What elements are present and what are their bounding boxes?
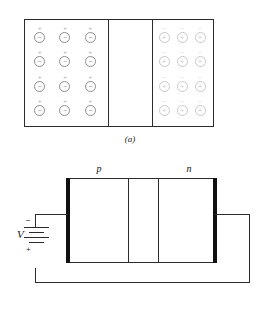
acceptor-ion-icon: − xyxy=(59,81,70,92)
electron-charge-symbol: − xyxy=(195,49,206,55)
donor-ion-cell: −+ xyxy=(177,30,190,43)
donor-ion-icon: + xyxy=(195,105,206,116)
acceptor-ion-cell: +− xyxy=(85,30,98,43)
hole-charge-symbol: + xyxy=(59,98,70,104)
acceptor-ion-icon: − xyxy=(34,32,45,43)
hole-charge-symbol: + xyxy=(59,49,70,55)
electron-charge-symbol: − xyxy=(177,25,188,31)
diode-body xyxy=(68,178,215,263)
wire-bottom xyxy=(35,282,250,283)
electrode-n-contact xyxy=(213,178,217,263)
diode-depletion-boundary-left xyxy=(128,178,129,263)
donor-ion-icon: + xyxy=(159,56,170,67)
donor-ion-cell: −+ xyxy=(195,54,208,67)
acceptor-ion-cell: +− xyxy=(59,54,72,67)
acceptor-ion-cell: +− xyxy=(34,79,47,92)
acceptor-ion-icon: − xyxy=(85,81,96,92)
hole-charge-symbol: + xyxy=(85,49,96,55)
electron-charge-symbol: − xyxy=(159,25,170,31)
panel-b: p n V − + (b) xyxy=(0,150,260,314)
label-p-region: p xyxy=(89,163,109,174)
electron-charge-symbol: − xyxy=(177,98,188,104)
hole-charge-symbol: + xyxy=(85,74,96,80)
donor-ion-icon: + xyxy=(159,105,170,116)
electron-charge-symbol: − xyxy=(177,49,188,55)
acceptor-ion-icon: − xyxy=(85,32,96,43)
battery-plate-short xyxy=(29,232,44,233)
electron-charge-symbol: − xyxy=(195,25,206,31)
hole-charge-symbol: + xyxy=(85,25,96,31)
electron-charge-symbol: − xyxy=(159,98,170,104)
donor-ion-icon: + xyxy=(177,81,188,92)
donor-ion-cell: −+ xyxy=(195,103,208,116)
pn-junction-figure: +−+−+−+−+−+−+−+−+−+−+−+− −+−+−+−+−+−+−+−… xyxy=(0,0,260,314)
donor-ion-icon: + xyxy=(195,32,206,43)
donor-ion-cell: −+ xyxy=(159,54,172,67)
acceptor-ion-icon: − xyxy=(85,56,96,67)
acceptor-ion-cell: +− xyxy=(59,103,72,116)
donor-ion-cell: −+ xyxy=(159,79,172,92)
donor-ion-icon: + xyxy=(195,81,206,92)
acceptor-ion-icon: − xyxy=(59,32,70,43)
battery-voltage-label: V xyxy=(17,228,24,240)
hole-charge-symbol: + xyxy=(34,98,45,104)
electron-charge-symbol: − xyxy=(195,74,206,80)
donor-ion-cell: −+ xyxy=(195,79,208,92)
battery-plate-short xyxy=(29,242,44,243)
n-region-carrier-grid: −+−+−+−+−+−+−+−+−+−+−+−+ xyxy=(156,24,210,122)
hole-charge-symbol: + xyxy=(34,25,45,31)
acceptor-ion-cell: +− xyxy=(34,30,47,43)
hole-charge-symbol: + xyxy=(59,25,70,31)
battery-positive-terminal: + xyxy=(26,246,31,254)
acceptor-ion-icon: − xyxy=(85,105,96,116)
donor-ion-cell: −+ xyxy=(177,79,190,92)
donor-ion-icon: + xyxy=(177,56,188,67)
label-n-region: n xyxy=(179,163,199,174)
donor-ion-cell: −+ xyxy=(159,30,172,43)
donor-ion-icon: + xyxy=(159,32,170,43)
acceptor-ion-cell: +− xyxy=(85,103,98,116)
acceptor-ion-icon: − xyxy=(34,56,45,67)
electron-charge-symbol: − xyxy=(159,74,170,80)
donor-ion-cell: −+ xyxy=(177,54,190,67)
donor-ion-cell: −+ xyxy=(195,30,208,43)
acceptor-ion-cell: +− xyxy=(85,54,98,67)
donor-ion-icon: + xyxy=(159,81,170,92)
hole-charge-symbol: + xyxy=(59,74,70,80)
acceptor-ion-cell: +− xyxy=(59,30,72,43)
wire-right-vertical xyxy=(249,214,250,283)
acceptor-ion-cell: +− xyxy=(59,79,72,92)
electron-charge-symbol: − xyxy=(177,74,188,80)
electrode-p-contact xyxy=(66,178,70,263)
hole-charge-symbol: + xyxy=(34,74,45,80)
acceptor-ion-icon: − xyxy=(59,56,70,67)
hole-charge-symbol: + xyxy=(34,49,45,55)
battery-negative-terminal: − xyxy=(26,217,31,225)
battery-plate-long xyxy=(24,227,49,228)
battery-plate-long xyxy=(24,237,49,238)
acceptor-ion-cell: +− xyxy=(34,103,47,116)
battery-symbol: V − + xyxy=(20,210,53,272)
electron-charge-symbol: − xyxy=(195,98,206,104)
donor-ion-cell: −+ xyxy=(159,103,172,116)
p-region-carrier-grid: +−+−+−+−+−+−+−+−+−+−+−+− xyxy=(28,24,104,122)
depletion-boundary-right xyxy=(152,19,153,127)
hole-charge-symbol: + xyxy=(85,98,96,104)
acceptor-ion-icon: − xyxy=(59,105,70,116)
donor-ion-icon: + xyxy=(177,105,188,116)
acceptor-ion-cell: +− xyxy=(34,54,47,67)
acceptor-ion-icon: − xyxy=(34,105,45,116)
acceptor-ion-cell: +− xyxy=(85,79,98,92)
panel-a-caption: (a) xyxy=(0,134,260,144)
depletion-boundary-left xyxy=(108,19,109,127)
acceptor-ion-icon: − xyxy=(34,81,45,92)
electron-charge-symbol: − xyxy=(159,49,170,55)
wire-top-right xyxy=(215,214,250,215)
donor-ion-icon: + xyxy=(195,56,206,67)
panel-a: +−+−+−+−+−+−+−+−+−+−+−+− −+−+−+−+−+−+−+−… xyxy=(0,0,260,150)
donor-ion-cell: −+ xyxy=(177,103,190,116)
diode-depletion-boundary-right xyxy=(158,178,159,263)
donor-ion-icon: + xyxy=(177,32,188,43)
